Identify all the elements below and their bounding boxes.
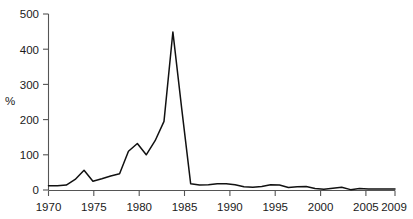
y-tick-label-500: 500 xyxy=(20,8,39,20)
y-tick-label-0: 0 xyxy=(33,184,39,196)
y-axis-tick-labels: 500 400 300 200 100 0 xyxy=(20,8,39,196)
x-tick-label-1975: 1975 xyxy=(81,201,107,213)
x-axis-tick-labels: 1970 1975 1980 1985 1990 1995 2000 2005 … xyxy=(36,201,407,213)
x-axis-group: 1970 1975 1980 1985 1990 1995 2000 2005 … xyxy=(36,191,407,214)
y-axis-ticks xyxy=(43,14,49,190)
y-tick-label-200: 200 xyxy=(20,114,39,126)
y-axis-group: 500 400 300 200 100 0 % xyxy=(5,8,49,196)
x-tick-label-1970: 1970 xyxy=(36,201,62,213)
x-tick-label-2009: 2009 xyxy=(381,201,407,213)
data-series-line xyxy=(49,32,396,190)
x-tick-label-1980: 1980 xyxy=(126,201,152,213)
chart-container: 500 400 300 200 100 0 % xyxy=(0,0,413,219)
y-tick-label-400: 400 xyxy=(20,44,39,56)
x-tick-label-1990: 1990 xyxy=(217,201,243,213)
x-axis-ticks xyxy=(49,191,396,197)
line-chart: 500 400 300 200 100 0 % xyxy=(0,0,413,219)
x-tick-label-1985: 1985 xyxy=(172,201,198,213)
y-axis-title: % xyxy=(5,95,15,107)
x-tick-label-2005: 2005 xyxy=(353,201,379,213)
x-tick-label-2000: 2000 xyxy=(308,201,334,213)
y-tick-label-300: 300 xyxy=(20,79,39,91)
x-tick-label-1995: 1995 xyxy=(262,201,288,213)
y-tick-label-100: 100 xyxy=(20,149,39,161)
